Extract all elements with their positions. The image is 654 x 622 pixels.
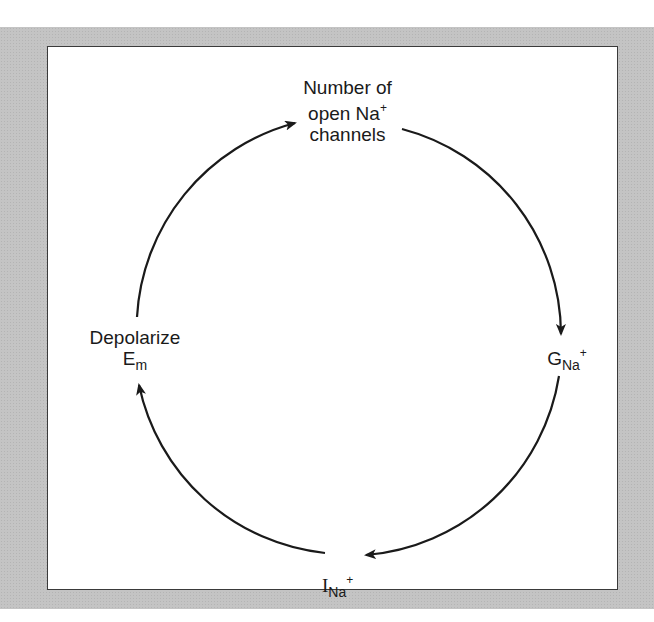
arrow-ina-to-depolarize [139, 385, 325, 553]
node-i-na: INa+ [322, 570, 372, 603]
node-g-na: GNa+ [532, 343, 602, 376]
depolarize-line1: Depolarize [75, 327, 195, 348]
node-depolarize: Depolarize Em [75, 327, 195, 376]
open-channels-line3: channels [285, 124, 410, 145]
arrow-gna-to-ina [366, 376, 559, 555]
node-open-channels: Number of open Na+ channels [285, 77, 410, 145]
arrow-depolarize-to-channels [137, 123, 295, 317]
arrow-channels-to-gna [402, 129, 561, 334]
depolarize-line2: Em [75, 348, 195, 376]
open-channels-line2: open Na+ [285, 98, 410, 124]
open-channels-line1: Number of [285, 77, 410, 98]
